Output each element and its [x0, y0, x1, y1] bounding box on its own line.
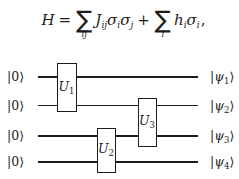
- sum-over-ij: ∑ ij: [76, 7, 92, 33]
- gate-U2: U2: [97, 128, 116, 174]
- input-ket-q3: |0⟩: [7, 127, 24, 145]
- gate-U1-subscript: 1: [69, 85, 74, 95]
- input-ket-q1: |0⟩: [7, 68, 24, 86]
- formula-plus: +: [137, 11, 150, 29]
- input-ket-q4: |0⟩: [7, 153, 24, 171]
- gate-U2-letter: U: [98, 141, 109, 156]
- ket-angle: ⟩: [229, 98, 234, 113]
- formula-sigma-i: σi: [107, 11, 120, 30]
- formula-H: H: [42, 11, 55, 29]
- ket-psi: ψ: [214, 98, 224, 113]
- gate-U1-letter: U: [59, 79, 70, 94]
- formula-sigma3-subscript: i: [197, 20, 200, 30]
- formula-comma: ,: [201, 11, 206, 29]
- gate-U2-subscript: 2: [109, 148, 114, 158]
- qubit-wire-4: [38, 161, 198, 163]
- output-ket-psi2: |ψ2⟩: [210, 97, 234, 115]
- formula-h: h: [174, 11, 184, 29]
- gate-U3: U3: [138, 98, 157, 147]
- ket-psi: ψ: [214, 154, 224, 169]
- formula-sigma-j: σj: [120, 11, 133, 30]
- gate-U3-label: U3: [139, 115, 155, 129]
- formula-J-ij: Jij: [95, 11, 107, 30]
- qubit-wire-3: [38, 135, 198, 137]
- gate-U2-label: U2: [98, 143, 114, 157]
- output-ket-psi1: |ψ1⟩: [210, 68, 234, 86]
- formula-sigma2-subscript: j: [130, 20, 133, 30]
- output-ket-psi4: |ψ4⟩: [210, 153, 234, 171]
- formula-sigma3: σ: [187, 11, 197, 29]
- sum-over-i: ∑ i: [155, 7, 171, 33]
- formula-h-i: hi: [174, 11, 187, 30]
- formula-sigma2: σ: [120, 11, 130, 29]
- input-ket-q2: |0⟩: [7, 97, 24, 115]
- formula-equals: =: [59, 11, 72, 29]
- sum-limit-ij: ij: [82, 30, 87, 39]
- quantum-circuit-figure: H = ∑ ij Jij σi σj + ∑ i hi σi , |0⟩ |0⟩…: [0, 0, 239, 179]
- ket-angle: ⟩: [229, 154, 234, 169]
- output-ket-psi3: |ψ3⟩: [210, 127, 234, 145]
- sum-limit-i: i: [162, 30, 165, 39]
- ket-angle: ⟩: [229, 128, 234, 143]
- gate-U3-letter: U: [139, 113, 150, 128]
- ket-psi: ψ: [214, 69, 224, 84]
- ket-angle: ⟩: [229, 69, 234, 84]
- hamiltonian-formula: H = ∑ ij Jij σi σj + ∑ i hi σi ,: [4, 5, 239, 35]
- gate-U1: U1: [57, 63, 77, 112]
- formula-sigma-i-2: σi: [187, 11, 200, 30]
- gate-U3-subscript: 3: [150, 120, 155, 130]
- formula-sigma1: σ: [107, 11, 117, 29]
- gate-U1-label: U1: [59, 81, 75, 95]
- ket-psi: ψ: [214, 128, 224, 143]
